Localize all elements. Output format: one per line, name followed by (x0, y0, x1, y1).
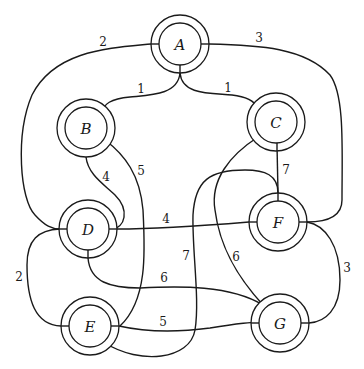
weight-d-g: 6 (160, 271, 168, 285)
node-d: D (59, 200, 117, 258)
node-d-label: D (81, 221, 94, 239)
weight-a-b: 1 (137, 82, 145, 96)
node-e-label: E (84, 318, 96, 336)
edge-d-f (117, 222, 249, 229)
edge-a-c (180, 73, 258, 108)
weight-f-e: 7 (182, 249, 190, 263)
node-b-label: B (79, 120, 91, 138)
ring-port-ticks (59, 44, 309, 326)
weight-a-f: 3 (255, 31, 263, 45)
weight-d-f: 4 (162, 212, 170, 226)
edge-e-g (119, 323, 252, 331)
node-f-label: F (272, 214, 284, 232)
edge-d-e (27, 229, 61, 326)
node-g-label: G (274, 315, 286, 333)
weight-b-d: 4 (102, 170, 110, 184)
node-f: F (249, 193, 307, 251)
edge-weights: 1 1 2 3 4 5 7 6 4 6 2 3 7 5 (15, 31, 351, 329)
edge-f-g (307, 222, 340, 323)
node-c: C (247, 93, 305, 151)
node-b: B (57, 99, 115, 157)
graph-diagram: 1 1 2 3 4 5 7 6 4 6 2 3 7 5 A B C D F (0, 0, 364, 369)
weight-e-g: 5 (159, 315, 167, 329)
edge-d-g (88, 258, 263, 305)
weight-b-e: 5 (137, 164, 145, 178)
node-g: G (251, 294, 309, 352)
node-a: A (151, 15, 209, 73)
weight-f-g: 3 (343, 261, 351, 275)
weight-c-g: 6 (232, 250, 240, 264)
node-e: E (61, 297, 119, 355)
weight-c-f: 7 (282, 163, 290, 177)
node-c-label: C (270, 114, 282, 132)
weight-d-e: 2 (15, 270, 23, 284)
weight-a-d: 2 (99, 35, 107, 49)
node-a-label: A (173, 36, 186, 54)
weight-a-c: 1 (224, 81, 232, 95)
